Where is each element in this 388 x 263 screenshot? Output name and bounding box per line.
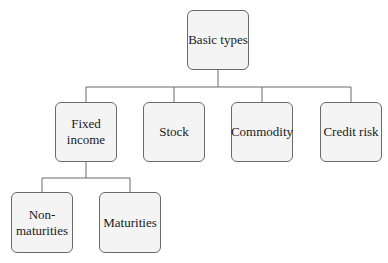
node-non-maturities: Non- maturities	[11, 192, 73, 253]
node-credit-risk: Credit risk	[320, 102, 382, 162]
node-commodity: Commodity	[231, 102, 293, 162]
node-fixed-income: Fixed income	[55, 102, 117, 162]
node-basic-types: Basic types	[187, 10, 249, 70]
node-maturities: Maturities	[99, 192, 161, 253]
node-stock: Stock	[143, 102, 205, 162]
basic-types-hierarchy-diagram: Basic types Fixed income Stock Commodity…	[0, 0, 388, 263]
